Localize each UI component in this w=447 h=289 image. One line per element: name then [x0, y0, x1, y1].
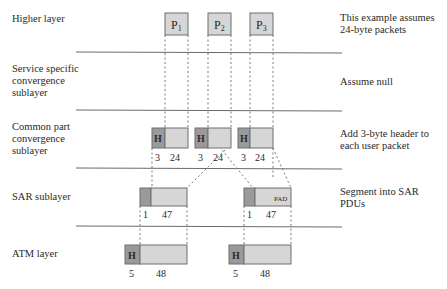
atm-payload-size: 48 — [260, 268, 270, 279]
cpcs-header-size: 3 — [241, 152, 246, 163]
atm-header-size: 5 — [129, 268, 134, 279]
sar-payload-size: 47 — [162, 209, 172, 220]
separator-line — [76, 52, 342, 53]
sar-header-size: 1 — [143, 209, 148, 220]
pad-label: PAD — [274, 195, 287, 203]
separator-line — [76, 110, 342, 111]
cpcs-header-label: H — [197, 133, 205, 144]
cpcs-header-size: 3 — [155, 152, 160, 163]
atm-header-label: H — [128, 250, 136, 261]
cpcs-pdu-2: H 3 24 — [195, 128, 231, 163]
cpcs-header-label: H — [240, 133, 248, 144]
atm-payload-size: 48 — [156, 268, 166, 279]
sar-pdu-1: 1 47 — [140, 188, 187, 220]
separator-line — [76, 168, 342, 169]
cpcs-payload-size: 24 — [255, 152, 265, 163]
atm-cell-2: H 5 48 — [229, 245, 291, 279]
cpcs-pdu-3: H 3 24 — [238, 128, 273, 163]
atm-aal5-diagram: P1 P2 P3 H 3 24 H 3 24 H 3 24 1 47 — [0, 0, 447, 289]
sar-pdu-2: PAD 1 47 — [244, 188, 291, 220]
atm-cell-1: H 5 48 — [125, 245, 187, 279]
cpcs-payload-size: 24 — [170, 152, 180, 163]
sar-payload-size: 47 — [266, 209, 276, 220]
sar-header-size: 1 — [247, 209, 252, 220]
atm-header-label: H — [232, 250, 240, 261]
separator-line — [76, 226, 342, 227]
packet-p2: P2 — [208, 13, 231, 35]
cpcs-header-size: 3 — [198, 152, 203, 163]
cpcs-header-label: H — [154, 133, 162, 144]
cpcs-payload-size: 24 — [213, 152, 223, 163]
atm-header-size: 5 — [233, 268, 238, 279]
packet-p1: P1 — [165, 13, 188, 35]
packet-p3: P3 — [250, 13, 273, 35]
cpcs-pdu-1: H 3 24 — [152, 128, 188, 163]
